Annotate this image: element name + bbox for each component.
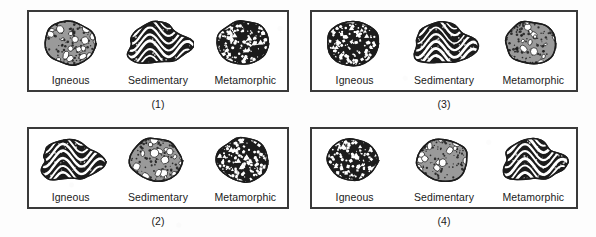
rock-specimen[interactable]: Metamorphic xyxy=(489,16,577,86)
rock-label: Igneous xyxy=(336,74,374,86)
speckled-rock-icon xyxy=(319,16,391,72)
rock-label: Metamorphic xyxy=(502,191,564,203)
rock-specimen[interactable]: Metamorphic xyxy=(202,133,288,203)
rock-row: Igneous Sedimentary Metamorphic xyxy=(310,10,578,92)
conglomerate-rock-icon xyxy=(408,133,480,189)
speckled-rock-icon xyxy=(319,133,391,189)
rock-label: Igneous xyxy=(52,191,90,203)
rock-specimen[interactable]: Igneous xyxy=(27,16,113,86)
banded-rock-icon xyxy=(497,133,569,189)
rock-specimen[interactable]: Sedimentary xyxy=(115,133,201,203)
rock-label: Sedimentary xyxy=(414,191,474,203)
choice-panel-1[interactable]: Igneous Sedimentary Metamorphic (1) xyxy=(27,10,289,115)
rock-specimen[interactable]: Sedimentary xyxy=(115,16,201,86)
panel-number: (3) xyxy=(310,98,578,110)
rock-label: Sedimentary xyxy=(414,74,474,86)
panel-number: (1) xyxy=(27,98,289,110)
banded-rock-icon xyxy=(122,16,194,72)
choice-panel-3[interactable]: Igneous Sedimentary Metamorphic (3) xyxy=(310,10,578,115)
rock-specimen[interactable]: Sedimentary xyxy=(400,16,488,86)
rock-specimen[interactable]: Igneous xyxy=(27,133,113,203)
rock-label: Metamorphic xyxy=(214,74,276,86)
conglomerate-rock-icon xyxy=(497,16,569,72)
rock-row: Igneous Sedimentary Metamorphic xyxy=(310,127,578,209)
panel-number: (4) xyxy=(310,215,578,227)
banded-rock-icon xyxy=(408,16,480,72)
banded-rock-icon xyxy=(35,133,107,189)
rock-label: Sedimentary xyxy=(128,74,188,86)
rock-specimen[interactable]: Igneous xyxy=(310,16,398,86)
rock-label: Igneous xyxy=(336,191,374,203)
speckled-rock-icon xyxy=(209,16,281,72)
rock-row: Igneous Sedimentary Metamorphic xyxy=(27,10,289,92)
conglomerate-rock-icon xyxy=(122,133,194,189)
rock-label: Metamorphic xyxy=(214,191,276,203)
rock-row: Igneous Sedimentary Metamorphic xyxy=(27,127,289,209)
rock-specimen[interactable]: Igneous xyxy=(310,133,398,203)
rock-specimen[interactable]: Metamorphic xyxy=(202,16,288,86)
choice-panel-2[interactable]: Igneous Sedimentary Metamorphic (2) xyxy=(27,127,289,232)
rock-specimen[interactable]: Sedimentary xyxy=(400,133,488,203)
speckled-rock-icon xyxy=(209,133,281,189)
panel-number: (2) xyxy=(27,215,289,227)
rock-label: Igneous xyxy=(52,74,90,86)
rock-specimen[interactable]: Metamorphic xyxy=(489,133,577,203)
choice-panel-4[interactable]: Igneous Sedimentary Metamorphic (4) xyxy=(310,127,578,232)
rock-label: Metamorphic xyxy=(502,74,564,86)
conglomerate-rock-icon xyxy=(35,16,107,72)
rock-label: Sedimentary xyxy=(128,191,188,203)
